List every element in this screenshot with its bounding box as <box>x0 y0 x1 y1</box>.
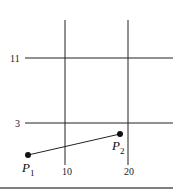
point-label-p1-subscript: 1 <box>30 168 35 178</box>
point-p1 <box>25 152 31 158</box>
point-label-p2: P <box>111 138 120 153</box>
label-3: 3 <box>15 118 20 129</box>
point-label-p1: P <box>21 160 30 175</box>
point-label-p2-subscript: 2 <box>120 146 125 156</box>
point-p2 <box>117 131 123 137</box>
label-11: 11 <box>10 53 20 64</box>
label-20: 20 <box>124 166 134 177</box>
label-10: 10 <box>62 166 72 177</box>
segment-p1-p2 <box>28 134 120 155</box>
grid-diagram: 11 3 10 20 P 1 P 2 <box>0 0 173 192</box>
